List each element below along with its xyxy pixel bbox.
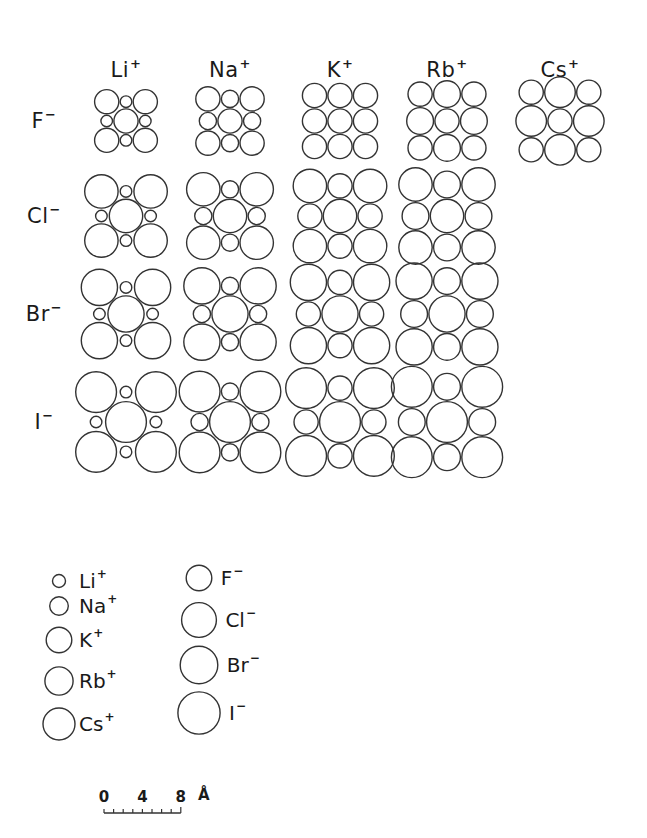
anion-circle-f — [95, 128, 119, 152]
cation-circle-na — [221, 181, 238, 198]
ion-symbol: Rb — [426, 58, 455, 82]
anion-circle-i — [76, 372, 117, 413]
anion-circle-br — [240, 324, 276, 360]
row-label-f: F− — [32, 111, 57, 132]
anion-circle-cl — [323, 199, 356, 232]
anion-circle-br — [108, 296, 144, 332]
anion-circle-br — [396, 329, 432, 365]
cell-naf — [196, 87, 264, 155]
anion-circle-f — [519, 80, 543, 104]
cell-ki — [286, 368, 395, 477]
anion-circle-f — [196, 87, 220, 111]
cation-circle-k — [328, 174, 352, 198]
scale-label: 0 — [99, 790, 109, 805]
cell-nai — [179, 371, 281, 473]
legend-circle-li — [53, 575, 66, 588]
cation-circle-li — [120, 186, 132, 198]
cation-circle-k — [328, 270, 352, 294]
anion-circle-cl — [240, 226, 273, 259]
cation-circle-li — [147, 308, 159, 320]
anion-circle-i — [76, 432, 117, 473]
cation-circle-k — [328, 376, 352, 400]
cell-nacl — [187, 173, 274, 260]
ion-charge: + — [342, 56, 353, 71]
cation-circle-rb — [434, 234, 461, 261]
cation-circle-k — [358, 204, 382, 228]
cation-circle-cs — [574, 106, 605, 137]
legend-label-i: I− — [229, 703, 246, 723]
anion-circle-f — [114, 109, 138, 133]
anion-circle-br — [135, 269, 171, 305]
cation-circle-rb — [434, 171, 461, 198]
cell-rbi — [391, 366, 502, 477]
cation-circle-k — [353, 109, 377, 133]
anion-circle-i — [136, 372, 177, 413]
cell-csf — [516, 77, 604, 165]
cation-circle-na — [221, 334, 238, 351]
cation-circle-rb — [467, 301, 494, 328]
anion-circle-cl — [187, 173, 220, 206]
ion-symbol: Cl — [225, 608, 245, 632]
anion-circle-cl — [399, 231, 432, 264]
anion-circle-f — [435, 109, 459, 133]
column-header-k: K+ — [327, 60, 354, 81]
ion-charge: + — [240, 56, 251, 71]
cation-circle-li — [90, 416, 102, 428]
cation-circle-rb — [398, 409, 425, 436]
row-label-i: I− — [34, 412, 53, 433]
ion-charge: − — [51, 300, 62, 315]
cation-circle-li — [94, 308, 106, 320]
legend-label-k: K+ — [79, 630, 103, 650]
anion-circle-i — [286, 436, 327, 477]
ion-symbol: Li — [111, 58, 130, 82]
cation-circle-na — [221, 90, 238, 107]
ion-charge: + — [568, 56, 579, 71]
anion-circle-i — [354, 436, 395, 477]
legend-circle-f — [186, 565, 212, 591]
anion-circle-f — [218, 109, 242, 133]
legend-label-cs: Cs+ — [79, 714, 114, 734]
cation-circle-na — [250, 305, 267, 322]
ion-charge: + — [104, 710, 114, 724]
legend-label-br: Br− — [227, 655, 260, 675]
anion-circle-f — [302, 83, 326, 107]
ion-symbol: Cs — [540, 58, 567, 82]
anion-circle-i — [354, 368, 395, 409]
anion-circle-i — [286, 368, 327, 409]
scale-label: 4 — [137, 790, 147, 805]
anion-circle-cl — [293, 229, 326, 262]
anion-circle-cl — [85, 224, 118, 257]
legend-circles — [43, 565, 220, 740]
cation-circle-na — [221, 383, 238, 400]
ion-symbol: I — [229, 701, 235, 725]
anion-circle-br — [462, 329, 498, 365]
cation-circle-k — [360, 302, 384, 326]
ion-symbol: K — [79, 628, 92, 652]
ion-symbol: Na — [79, 594, 106, 618]
anion-circle-cl — [462, 231, 495, 264]
anion-circle-f — [462, 136, 486, 160]
cation-circle-k — [296, 302, 320, 326]
anion-circle-br — [81, 269, 117, 305]
cation-circle-k — [328, 83, 352, 107]
cation-circle-na — [221, 234, 238, 251]
anion-circle-f — [95, 90, 119, 114]
cation-circle-rb — [402, 203, 429, 230]
cation-circle-li — [120, 446, 132, 458]
anion-circle-f — [408, 136, 432, 160]
anion-circle-cl — [134, 175, 167, 208]
cation-circle-li — [145, 210, 157, 222]
anion-circle-i — [136, 432, 177, 473]
row-label-br: Br− — [26, 304, 62, 325]
cell-rbcl — [399, 168, 495, 264]
cation-circle-rb — [434, 373, 461, 400]
anion-circle-f — [328, 109, 352, 133]
anion-circle-f — [408, 82, 432, 106]
legend-label-cl: Cl− — [225, 610, 256, 630]
ion-symbol: Br — [26, 302, 50, 326]
ion-symbol: Cs — [79, 712, 103, 736]
cation-circle-k — [328, 444, 352, 468]
anion-circle-i — [179, 371, 220, 412]
cation-circle-na — [195, 207, 212, 224]
ion-charge: − — [233, 564, 243, 578]
